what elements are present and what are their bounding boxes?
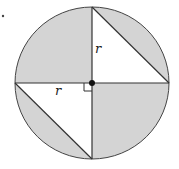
vertical-radius-label: r: [95, 41, 102, 56]
bullet-dot: [2, 15, 4, 17]
circle-diagram: r r: [0, 0, 179, 169]
horizontal-radius-label: r: [55, 83, 62, 98]
center-point: [89, 80, 95, 86]
